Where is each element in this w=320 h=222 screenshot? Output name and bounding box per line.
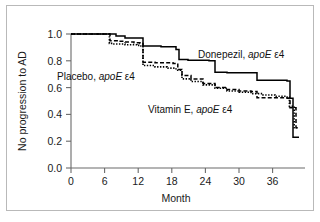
donepezil-series-label: Donepezil, apoE ε4: [198, 49, 285, 60]
ytick-label-1: 1.0: [47, 28, 62, 40]
xtick-label-36: 36: [267, 175, 279, 187]
xtick-label-12: 12: [132, 175, 144, 187]
ytick-label-2: 0.8: [47, 55, 62, 67]
placebo-series-label: Placebo, apoE ε4: [57, 71, 135, 82]
y-axis-tick-labels: 1.0 0.8 0.6 0.4 0.2 0.0: [47, 28, 62, 174]
ytick-label-5: 0.2: [47, 135, 62, 147]
ytick-label-6: 0.0: [47, 162, 62, 174]
ytick-label-3: 0.6: [47, 82, 62, 94]
vitamin-e-series-label: Vitamin E, apoE ε4: [148, 104, 233, 115]
y-axis-title: No progression to AD: [16, 51, 28, 151]
xtick-label-24: 24: [200, 175, 212, 187]
figure-container: 1.0 0.8 0.6 0.4 0.2 0.0 0 6 12 18 24 30 …: [0, 0, 320, 222]
kaplan-meier-chart: 1.0 0.8 0.6 0.4 0.2 0.0 0 6 12 18 24 30 …: [0, 0, 320, 222]
xtick-label-6: 6: [102, 175, 108, 187]
x-axis-tick-labels: 0 6 12 18 24 30 36: [68, 175, 279, 187]
x-axis-ticks: [71, 168, 273, 173]
xtick-label-0: 0: [68, 175, 74, 187]
xtick-label-30: 30: [233, 175, 245, 187]
xtick-label-18: 18: [166, 175, 178, 187]
ytick-label-4: 0.4: [47, 108, 62, 120]
x-axis-title: Month: [161, 192, 190, 204]
y-axis-ticks: [66, 34, 71, 168]
